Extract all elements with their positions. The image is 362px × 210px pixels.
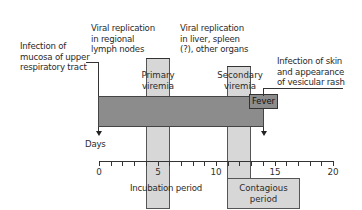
axis-tick <box>158 161 159 166</box>
infection-skin-label: Infection of skin and appearance of vesi… <box>277 56 345 88</box>
tick-label-15: 15 <box>265 167 285 177</box>
axis-tick <box>216 161 217 166</box>
skin-leader-h <box>263 88 343 89</box>
axis-tick <box>146 161 147 166</box>
secondary-viremia-label: Secondary viremia <box>213 70 267 91</box>
incubation-bar <box>98 96 264 127</box>
viral-lymph-label: Viral replication in regional lymph node… <box>91 23 155 55</box>
fever-box: Fever <box>249 94 278 109</box>
axis-tick <box>298 161 299 166</box>
infection-mucosa-label: Infection of mucosa of upper respiratory… <box>20 41 89 73</box>
tick-label-10: 10 <box>206 167 226 177</box>
primary-bracket-h <box>146 58 170 59</box>
axis-tick <box>275 161 276 166</box>
axis-tick <box>333 161 334 166</box>
tick-label-5: 5 <box>148 167 168 177</box>
tick-label-0: 0 <box>89 167 109 177</box>
primary-viremia-label: Primary viremia <box>138 70 178 91</box>
axis-tick <box>263 161 264 166</box>
axis-tick <box>286 161 287 166</box>
axis-tick <box>122 161 123 166</box>
axis-tick <box>193 161 194 166</box>
axis-tick <box>204 161 205 166</box>
varicella-pathogenesis-diagram: Primary viremia Secondary viremia Fever … <box>0 0 362 210</box>
axis-tick <box>228 161 229 166</box>
incubation-period-label: Incubation period <box>130 183 202 194</box>
day14-arrow-icon <box>261 131 267 136</box>
axis-tick <box>251 161 252 166</box>
axis-tick <box>321 161 322 166</box>
contagious-period-label: Contagious period <box>239 183 287 204</box>
axis-tick <box>181 161 182 166</box>
secondary-bracket-h <box>227 66 251 67</box>
skin-leader-v <box>263 88 264 96</box>
day0-arrow-icon <box>96 131 102 136</box>
tick-label-20: 20 <box>323 167 343 177</box>
days-label: Days <box>85 139 106 150</box>
axis-tick <box>169 161 170 166</box>
axis-tick <box>239 161 240 166</box>
axis-tick <box>111 161 112 166</box>
viral-liver-label: Viral replication in liver, spleen (?), … <box>180 23 248 55</box>
axis-tick <box>310 161 311 166</box>
axis-tick <box>134 161 135 166</box>
mucosa-leader-v <box>98 62 99 96</box>
axis-tick <box>99 161 100 166</box>
contagious-period-box: Contagious period <box>227 178 300 209</box>
